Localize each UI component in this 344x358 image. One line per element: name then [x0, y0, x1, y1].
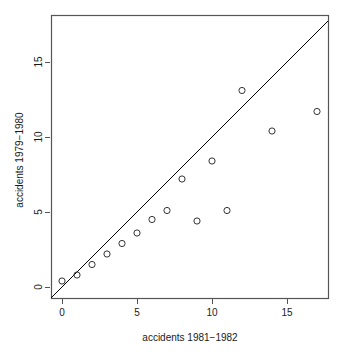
data-point	[104, 251, 110, 257]
data-point	[209, 158, 215, 164]
data-point	[134, 230, 140, 236]
data-point	[164, 207, 170, 213]
data-point	[269, 128, 275, 134]
data-point	[89, 261, 95, 267]
identity-reference-line	[51, 21, 328, 298]
x-tick-label: 15	[281, 307, 292, 318]
y-tick-label: 15	[33, 56, 44, 67]
y-axis-title: accidents 1979−1980	[14, 112, 25, 207]
data-point	[149, 216, 155, 222]
x-tick-label: 0	[59, 307, 65, 318]
y-tick-label: 5	[33, 209, 44, 215]
x-axis-title: accidents 1981−1982	[142, 332, 237, 343]
data-point	[59, 278, 65, 284]
data-point	[74, 272, 80, 278]
y-tick-label: 10	[33, 131, 44, 142]
y-tick-label: 0	[33, 284, 44, 290]
data-point	[314, 108, 320, 114]
data-point	[224, 207, 230, 213]
x-tick-label: 5	[134, 307, 140, 318]
plot-canvas	[0, 0, 344, 358]
x-tick-label: 10	[206, 307, 217, 318]
data-point	[194, 218, 200, 224]
scatter-plot-figure: accidents 1981−1982 accidents 1979−1980 …	[0, 0, 344, 358]
data-point	[239, 87, 245, 93]
data-point	[119, 240, 125, 246]
data-point	[179, 176, 185, 182]
